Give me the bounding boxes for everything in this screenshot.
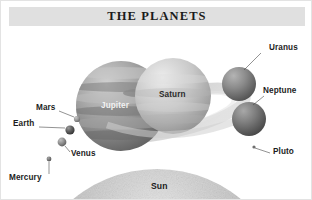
body-venus — [58, 138, 67, 147]
label-pluto: Pluto — [273, 147, 294, 156]
label-mercury: Mercury — [9, 173, 42, 182]
leader-line-mars — [59, 111, 74, 117]
leader-line-uranus — [244, 53, 261, 70]
solar-system-illustration — [1, 1, 312, 200]
body-uranus — [222, 67, 256, 101]
label-mars: Mars — [36, 103, 56, 112]
planets-poster: THE PLANETS Jupiter Saturn Uranus Neptun… — [0, 0, 312, 200]
label-earth: Earth — [13, 119, 34, 128]
page-title: THE PLANETS — [9, 7, 305, 26]
leader-line-venus — [65, 146, 70, 152]
leader-line-pluto — [255, 148, 270, 153]
body-earth — [65, 125, 74, 134]
leader-line-earth — [39, 127, 65, 128]
label-saturn: Saturn — [159, 90, 186, 99]
body-mercury — [47, 157, 52, 162]
label-neptune: Neptune — [263, 86, 296, 95]
leader-line-neptune — [253, 96, 264, 105]
label-sun: Sun — [151, 181, 168, 191]
label-uranus: Uranus — [269, 43, 298, 52]
body-neptune — [232, 102, 266, 136]
body-mars — [74, 116, 80, 122]
label-venus: Venus — [71, 149, 96, 158]
label-jupiter: Jupiter — [101, 101, 129, 110]
